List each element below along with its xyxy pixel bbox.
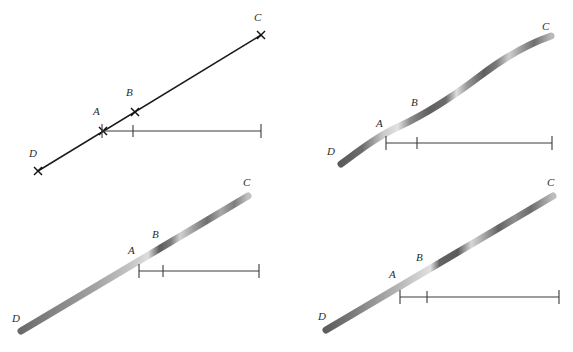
label-C-panel-4: C — [547, 176, 555, 188]
label-C-panel-2: C — [542, 20, 550, 32]
label-C-panel-3: C — [243, 176, 251, 188]
marker-D — [34, 167, 42, 175]
label-A-panel-4: A — [388, 268, 396, 280]
panel-bottom-left: A B C D — [11, 176, 259, 331]
ruler-panel-1 — [102, 124, 261, 138]
label-D-panel-4: D — [317, 310, 326, 322]
figure-canvas: A B C D A B C D — [0, 0, 573, 352]
label-D-panel-1: D — [28, 147, 37, 159]
marker-C — [257, 31, 265, 39]
label-A-panel-3: A — [127, 244, 135, 256]
curved-band-DC — [341, 36, 551, 164]
ruler-panel-3 — [139, 264, 259, 278]
label-B-panel-1: B — [126, 86, 133, 98]
figure-root: A B C D A B C D — [0, 0, 573, 352]
panel-top-right: A B C D — [326, 20, 552, 164]
marker-B — [131, 108, 139, 116]
ruler-panel-2 — [386, 136, 552, 150]
label-B-panel-4: B — [416, 251, 423, 263]
label-A-panel-2: A — [375, 117, 383, 129]
panel-top-left: A B C D — [28, 11, 265, 175]
panel-bottom-right: A B C D — [317, 176, 559, 330]
label-A-panel-1: A — [92, 105, 100, 117]
line-DC — [38, 35, 261, 171]
straight-band-DC — [326, 196, 553, 330]
label-D-panel-3: D — [11, 312, 20, 324]
label-B-panel-2: B — [411, 96, 418, 108]
label-C-panel-1: C — [254, 11, 262, 23]
straight-band-DC — [21, 196, 248, 331]
label-B-panel-3: B — [152, 228, 159, 240]
ruler-panel-4 — [400, 290, 559, 304]
label-D-panel-2: D — [326, 145, 335, 157]
